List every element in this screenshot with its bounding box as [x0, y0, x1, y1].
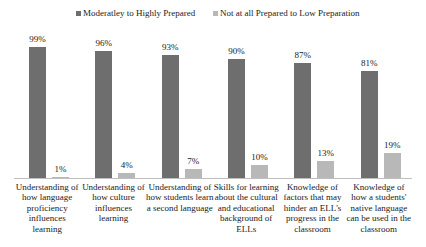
- data-label: 99%: [23, 34, 53, 44]
- data-label: 1%: [46, 164, 76, 174]
- bar-high: [228, 59, 245, 178]
- plot-area: 99%1%96%4%93%7%90%10%87%13%81%19%: [14, 0, 412, 178]
- data-label: 90%: [222, 46, 252, 56]
- data-label: 13%: [311, 148, 341, 158]
- data-label: 4%: [112, 160, 142, 170]
- bar-low: [384, 153, 401, 178]
- data-label: 10%: [245, 152, 275, 162]
- data-label: 19%: [377, 140, 407, 150]
- category-label: Understanding of how language proficienc…: [13, 182, 81, 234]
- data-label: 96%: [89, 38, 119, 48]
- bar-low: [251, 165, 268, 178]
- category-label: Understanding of how students learn a se…: [146, 182, 214, 213]
- bar-high: [29, 47, 46, 178]
- bar-high: [95, 51, 112, 178]
- category-label: Skills for learning about the cultural a…: [212, 182, 280, 234]
- x-axis: [14, 178, 412, 179]
- bar-high: [294, 63, 311, 178]
- category-label: Knowledge of factors that may hinder an …: [279, 182, 347, 234]
- data-label: 81%: [354, 58, 384, 68]
- data-label: 93%: [155, 42, 185, 52]
- bar-low: [185, 169, 202, 178]
- bar-high: [361, 71, 378, 178]
- data-label: 87%: [288, 50, 318, 60]
- category-label: Understanding of how culture influences …: [80, 182, 148, 224]
- bar-high: [162, 55, 179, 178]
- category-label: Knowledge of how a students' native lang…: [345, 182, 413, 234]
- data-label: 7%: [178, 156, 208, 166]
- bar-low: [317, 161, 334, 178]
